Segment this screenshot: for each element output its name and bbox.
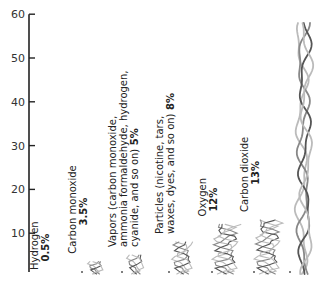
category-label-line: Hydrogen [29,221,40,270]
baseline-dot [289,271,291,273]
category-label: Carbon dioxide13% [239,137,261,212]
smoke-column [254,220,283,274]
category-percent: 12% [208,188,219,212]
category-percent: 3.5% [78,198,89,226]
y-tick-label: 60 [11,8,25,21]
smoke-strand [177,242,193,274]
baseline-dot [121,271,123,273]
category-label-line: Oxygen [197,178,208,217]
smoke-composition-chart: 102030405060 Hydrogen0.5%Carbon monoxide… [0,0,326,283]
y-tick-label: 40 [11,96,25,109]
smoke-column [127,255,144,274]
smoke-column [295,23,313,274]
category-label: Vapors (carbon monoxide,ammonia formalde… [107,70,140,247]
category-label-line: Carbon monoxide [67,165,78,253]
baseline-dot [211,271,213,273]
smoke-column [88,262,103,274]
baseline-dot [253,271,255,273]
category-percent: 13% [250,161,261,185]
category-label-line: Particles (nicotine, tars, [154,116,165,234]
category-labels: Hydrogen0.5%Carbon monoxide3.5%Vapors (c… [29,70,261,270]
y-tick-label: 50 [11,52,25,65]
category-label-line: Vapors (carbon monoxide, [107,116,118,247]
category-label: Oxygen12% [197,178,219,217]
smoke-column [172,242,193,274]
category-label-line: Carbon dioxide [239,137,250,212]
category-label: Hydrogen0.5% [29,221,51,270]
smoke-column [212,224,241,274]
baseline-dot [168,271,170,273]
y-tick-label: 10 [11,227,25,240]
category-label-line: cyanide, and so on) 5% [129,128,140,247]
category-label: Carbon monoxide3.5% [67,165,89,253]
category-label-line: waxes, dyes, and so on) 8% [165,93,176,234]
category-label: Particles (nicotine, tars,waxes, dyes, a… [154,93,176,234]
category-label-line: ammonia formaldehyde, hydrogen, [118,70,129,247]
category-percent: 0.5% [40,234,51,262]
y-tick-label: 20 [11,183,25,196]
baseline-dot [81,271,83,273]
y-tick-label: 30 [11,140,25,153]
